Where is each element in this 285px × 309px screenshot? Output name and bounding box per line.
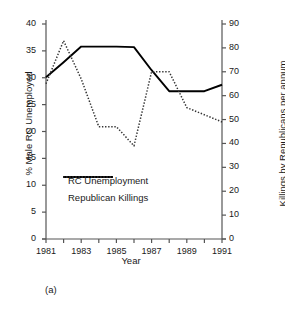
legend-swatch-dotted-icon — [62, 172, 114, 182]
chart-legend: RC Unemployment Republican Killings — [62, 172, 148, 206]
series-line-rc-unemployment — [46, 47, 222, 92]
plot-area — [0, 0, 285, 309]
legend-item-republican-killings: Republican Killings — [62, 189, 148, 206]
legend-label-republican-killings: Republican Killings — [68, 192, 148, 203]
figure-panel-a: % Male RC Unemployed Killings by Republi… — [0, 0, 285, 309]
series-line-republican-killings — [46, 41, 222, 146]
